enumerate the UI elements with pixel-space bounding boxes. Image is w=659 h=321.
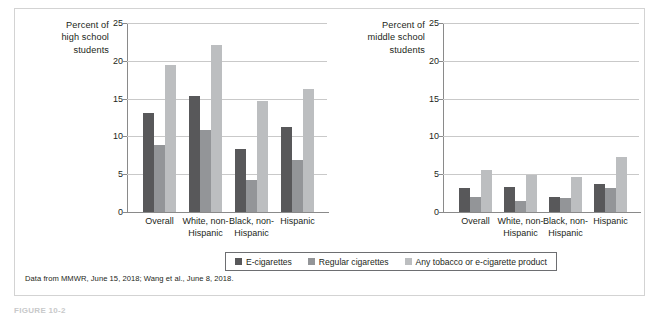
- chart-high-school-plot: 25 20 15 10 5 0: [127, 23, 327, 220]
- bar-e-cigarettes[interactable]: [504, 187, 515, 212]
- ytick-mark-0-right: [439, 212, 443, 213]
- bar-regular-cigarettes[interactable]: [200, 130, 211, 212]
- chart-high-school-axis-title: Percent of high school students: [17, 19, 109, 56]
- chart-middle-school-plot: 25 20 15 10 5 0: [443, 23, 639, 220]
- legend-item-any-tobacco[interactable]: Any tobacco or e-cigarette product: [405, 257, 547, 267]
- ytick-label-20-right: 20: [429, 56, 439, 66]
- bar-any-tobacco[interactable]: [165, 65, 176, 212]
- bar-any-tobacco[interactable]: [526, 175, 537, 212]
- xlabel-line-1: Hispanic: [580, 216, 641, 228]
- xlabel-line-2: Hispanic: [535, 228, 596, 240]
- bar-regular-cigarettes[interactable]: [246, 180, 257, 212]
- axis-title-line-1: Percent of: [333, 19, 425, 31]
- legend-item-e-cigarettes[interactable]: E-cigarettes: [235, 257, 292, 267]
- bar-group-white-right: [504, 23, 537, 212]
- bar-regular-cigarettes[interactable]: [560, 198, 571, 212]
- legend-label-any-tobacco: Any tobacco or e-cigarette product: [416, 257, 547, 267]
- bar-any-tobacco[interactable]: [257, 101, 268, 212]
- axis-title-line-1: Percent of: [17, 19, 109, 31]
- x-axis-right: [443, 212, 641, 213]
- xlabel-hispanic-left: Hispanic: [267, 216, 328, 228]
- bar-regular-cigarettes[interactable]: [292, 160, 303, 212]
- chart-middle-school-axis-title: Percent of middle school students: [333, 19, 425, 56]
- legend-label-e-cigarettes: E-cigarettes: [246, 257, 292, 267]
- bar-regular-cigarettes[interactable]: [154, 145, 165, 212]
- bar-any-tobacco[interactable]: [481, 170, 492, 212]
- axis-title-line-3: students: [333, 44, 425, 56]
- bar-any-tobacco[interactable]: [616, 157, 627, 212]
- bar-e-cigarettes[interactable]: [143, 113, 154, 212]
- plot-inner-left: 25 20 15 10 5 0: [127, 23, 327, 212]
- figure-panel: Percent of high school students 25 20: [14, 8, 645, 296]
- bar-e-cigarettes[interactable]: [189, 96, 200, 212]
- xlabel-line-1: Hispanic: [267, 216, 328, 228]
- bar-any-tobacco[interactable]: [211, 45, 222, 212]
- bar-e-cigarettes[interactable]: [235, 149, 246, 212]
- bar-regular-cigarettes[interactable]: [605, 188, 616, 212]
- xlabel-line-2: Hispanic: [221, 228, 282, 240]
- bar-group-white-left: [189, 23, 222, 212]
- axis-title-line-2: middle school: [333, 31, 425, 43]
- figure-caption: FIGURE 10-2: [14, 306, 66, 315]
- charts-row: Percent of high school students 25 20: [15, 9, 646, 249]
- axis-title-line-2: high school: [17, 31, 109, 43]
- bar-e-cigarettes[interactable]: [594, 184, 605, 212]
- bar-any-tobacco[interactable]: [571, 177, 582, 212]
- figure-root: Percent of high school students 25 20: [0, 0, 659, 321]
- bar-any-tobacco[interactable]: [303, 89, 314, 212]
- bar-group-hispanic-right: [594, 23, 627, 212]
- legend-swatch-regular-cigarettes-icon: [308, 258, 315, 265]
- legend-swatch-e-cigarettes-icon: [235, 258, 242, 265]
- bars-layer-right: [443, 23, 639, 212]
- legend-label-regular-cigarettes: Regular cigarettes: [319, 257, 389, 267]
- ytick-label-10-right: 10: [429, 131, 439, 141]
- bar-group-hispanic-left: [281, 23, 314, 212]
- bar-regular-cigarettes[interactable]: [470, 197, 481, 212]
- chart-middle-school: Percent of middle school students 25 20: [333, 9, 645, 249]
- axis-title-line-3: students: [17, 44, 109, 56]
- chart-high-school: Percent of high school students 25 20: [17, 9, 333, 249]
- source-note: Data from MMWR, June 15, 2018; Wang et a…: [25, 274, 234, 283]
- bar-group-overall-right: [459, 23, 492, 212]
- bar-e-cigarettes[interactable]: [459, 188, 470, 212]
- ytick-label-15-left: 15: [113, 94, 123, 104]
- legend-swatch-any-tobacco-icon: [405, 258, 412, 265]
- bar-group-black-right: [549, 23, 582, 212]
- bar-e-cigarettes[interactable]: [281, 127, 292, 212]
- bar-group-black-left: [235, 23, 268, 212]
- ytick-label-20-left: 20: [113, 56, 123, 66]
- bar-regular-cigarettes[interactable]: [515, 201, 526, 212]
- legend-item-regular-cigarettes[interactable]: Regular cigarettes: [308, 257, 389, 267]
- chart-legend: E-cigarettes Regular cigarettes Any toba…: [225, 252, 557, 271]
- x-axis-left: [127, 212, 329, 213]
- bar-e-cigarettes[interactable]: [549, 197, 560, 212]
- bars-layer-left: [127, 23, 327, 212]
- bar-group-overall-left: [143, 23, 176, 212]
- xlabel-hispanic-right: Hispanic: [580, 216, 641, 228]
- ytick-label-10-left: 10: [113, 131, 123, 141]
- ytick-label-25-left: 25: [113, 18, 123, 28]
- ytick-mark-0-left: [123, 212, 127, 213]
- plot-inner-right: 25 20 15 10 5 0: [443, 23, 639, 212]
- ytick-label-25-right: 25: [429, 18, 439, 28]
- ytick-label-15-right: 15: [429, 94, 439, 104]
